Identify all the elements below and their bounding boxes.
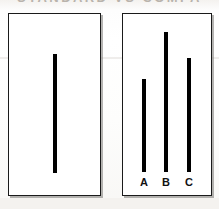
figure-title-clipped: STANDARD VS COMPA xyxy=(0,0,219,4)
scan-artifact-band-lower xyxy=(0,198,219,209)
standard-card xyxy=(8,13,101,196)
standard-line xyxy=(53,54,57,173)
comparison-card-inner: A B C xyxy=(123,14,211,195)
comparison-line-b xyxy=(164,32,168,172)
comparison-line-c xyxy=(187,58,191,172)
asch-line-figure: STANDARD VS COMPA A B C xyxy=(0,0,219,209)
comparison-label-a: A xyxy=(137,176,151,188)
comparison-label-b: B xyxy=(159,176,173,188)
figure-title-text: STANDARD VS COMPA xyxy=(0,0,219,4)
comparison-line-a xyxy=(142,79,146,172)
standard-card-inner xyxy=(9,14,100,195)
comparison-card: A B C xyxy=(122,13,212,196)
comparison-label-c: C xyxy=(182,176,196,188)
